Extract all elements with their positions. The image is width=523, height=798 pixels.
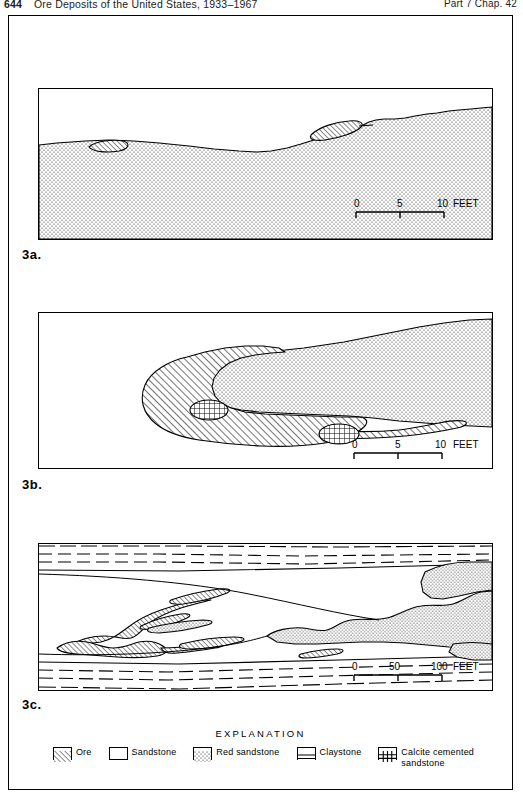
calcite-swatch-icon [378, 747, 397, 760]
scale-tick-0: 0 [352, 661, 358, 672]
legend-item-sandstone: Sandstone [109, 746, 177, 760]
scale-bar-line [354, 453, 442, 459]
scale-tick-100: 100 [431, 661, 448, 672]
calcite-concretion-3b-upper [190, 400, 228, 420]
scale-bar-line [354, 675, 442, 681]
scale-tick-10: 10 [437, 198, 449, 209]
legend-label-claystone: Claystone [320, 746, 362, 758]
scale-bar-3b: 0 5 10 FEET [352, 439, 479, 459]
panel-3c-drawing: 0 50 100 FEET [39, 544, 492, 690]
red-sandstone-swatch-icon [193, 747, 212, 760]
claystone-swatch-icon [297, 747, 316, 760]
part-chapter-label: Part 7 Chap. 42 [444, 0, 517, 9]
scale-tick-5: 5 [395, 439, 401, 450]
scale-tick-50: 50 [389, 661, 401, 672]
scale-unit: FEET [453, 439, 479, 450]
book-title: Ore Deposits of the United States, 1933–… [34, 0, 258, 10]
claystone-band-lower-3c [39, 656, 492, 689]
scale-tick-0: 0 [354, 198, 360, 209]
legend-item-claystone: Claystone [297, 746, 362, 760]
horizontal-lines-pattern-icon [298, 751, 315, 762]
panel-3a-drawing: 0 5 10 FEET [39, 89, 492, 239]
panel-label-3a: 3a. [22, 247, 42, 262]
ore-pattern-icon [54, 751, 71, 762]
panel-label-3b: 3b. [22, 477, 42, 492]
red-sandstone-upper-3b [209, 319, 492, 427]
figure-plate-page: 644 Ore Deposits of the United States, 1… [0, 0, 523, 798]
claystone-band-upper-3c [39, 546, 492, 571]
legend-item-calcite-cemented-sandstone: Calcite cemented sandstone [378, 746, 474, 769]
red-sandstone-body-3a [39, 107, 492, 239]
panel-3b-cross-section: 0 5 10 FEET [38, 312, 493, 469]
legend-item-ore: Ore [53, 746, 92, 760]
panel-3b-drawing: 0 5 10 FEET [39, 313, 492, 468]
legend: EXPLANATION Ore Sandstone [8, 728, 513, 769]
scale-bar-3c: 0 50 100 FEET [352, 661, 479, 681]
running-head: 644 Ore Deposits of the United States, 1… [0, 0, 523, 12]
panel-label-3c: 3c. [22, 697, 42, 712]
legend-label-sandstone: Sandstone [132, 746, 177, 758]
scale-unit: FEET [453, 661, 479, 672]
page-folio: 644 [4, 0, 22, 10]
scale-tick-0: 0 [352, 439, 358, 450]
scale-tick-10: 10 [435, 439, 447, 450]
legend-items: Ore Sandstone Red sandstone [8, 746, 513, 769]
legend-item-red-sandstone: Red sandstone [193, 746, 279, 760]
ore-pod-3c-lower-right [299, 649, 343, 658]
legend-label-ore: Ore [76, 746, 92, 758]
ore-swatch-icon [53, 747, 72, 760]
scale-unit: FEET [453, 198, 479, 209]
scale-tick-5: 5 [397, 198, 403, 209]
stipple-pattern-icon [194, 751, 211, 762]
sandstone-swatch-icon [109, 747, 128, 760]
red-sandstone-main-3c [267, 591, 492, 648]
grid-pattern-icon [379, 751, 396, 762]
legend-title: EXPLANATION [8, 728, 513, 739]
legend-label-calcite-cemented-sandstone: Calcite cemented sandstone [401, 746, 474, 769]
panel-3a-cross-section: 0 5 10 FEET [38, 88, 493, 240]
panel-3c-plan-map: 0 50 100 FEET [38, 543, 493, 691]
legend-label-red-sandstone: Red sandstone [216, 746, 279, 758]
